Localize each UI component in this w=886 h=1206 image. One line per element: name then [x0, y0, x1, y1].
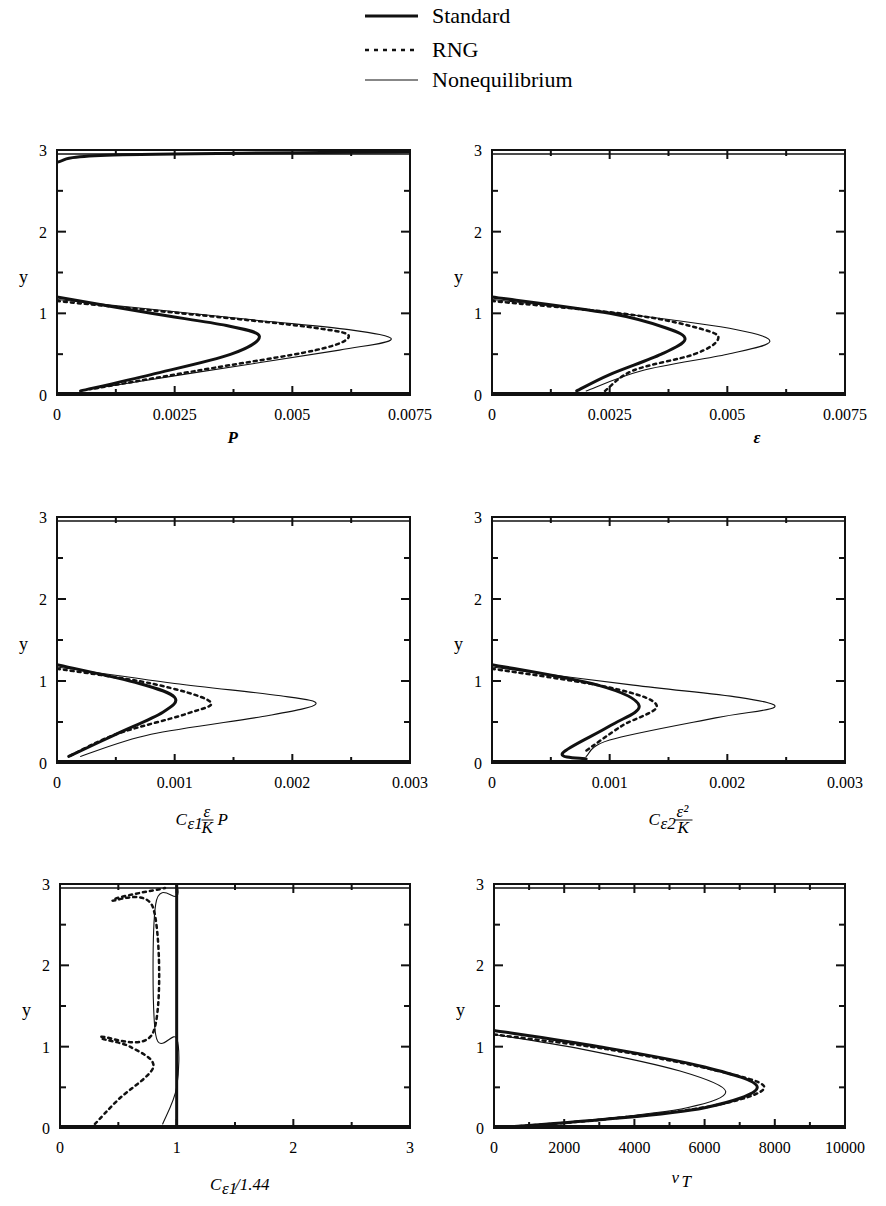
plot-area: [60, 884, 410, 1128]
series-line-nonequilibrium: [57, 299, 391, 389]
x-tick-label: 0.005: [274, 406, 310, 423]
x-tick-label: 0.002: [274, 774, 310, 791]
y-tick-label: 0: [42, 1120, 50, 1137]
y-tick-label: 2: [39, 224, 47, 241]
y-tick-label: 2: [476, 957, 484, 974]
x-tick-label: 0.0025: [588, 406, 632, 423]
x-tick-label: 0: [488, 406, 496, 423]
y-tick-label: 3: [39, 142, 47, 159]
legend-rng-label: RNG: [432, 37, 479, 62]
x-tick-label: 0.002: [709, 774, 745, 791]
y-tick-label: 2: [474, 224, 482, 241]
y-tick-label: 1: [474, 305, 482, 322]
y-tick-label: 2: [42, 957, 50, 974]
y-tick-label: 2: [39, 591, 47, 608]
y-tick-label: 0: [39, 755, 47, 772]
x-tick-label: 0.001: [592, 774, 628, 791]
x-tick-label: 6000: [689, 1139, 721, 1156]
x-tick-label: 4000: [618, 1139, 650, 1156]
x-tick-label: 0.0025: [153, 406, 197, 423]
svg-text:T: T: [682, 1172, 693, 1191]
y-axis-label: y: [22, 1000, 31, 1020]
svg-text:C: C: [210, 1175, 222, 1194]
x-axis-label: P: [227, 428, 239, 447]
x-tick-label: 0: [490, 1139, 498, 1156]
plot-frame: [494, 884, 845, 1128]
nu-t-panel: 0123y0200040006000800010000νT: [456, 876, 865, 1191]
y-axis-label: y: [454, 267, 463, 287]
plot-area: [492, 521, 845, 761]
y-tick-label: 1: [42, 1039, 50, 1056]
series-line-rng: [492, 669, 657, 751]
legend-standard-label: Standard: [432, 3, 510, 28]
y-tick-label: 3: [39, 509, 47, 526]
ce1-ratio-panel: 0123y0123Cε1/1.44: [22, 876, 414, 1198]
plot-frame: [57, 150, 410, 395]
y-axis-label: y: [456, 1000, 465, 1020]
y-tick-label: 1: [476, 1039, 484, 1056]
series-line-standard: [492, 665, 639, 759]
y-axis-label: y: [19, 634, 28, 654]
plot-frame: [492, 517, 845, 763]
plot-area: [492, 154, 845, 393]
plot-frame: [492, 150, 845, 395]
plot-frame: [57, 517, 410, 763]
series-line-nonequilibrium: [492, 299, 770, 390]
x-tick-label: 0: [53, 406, 61, 423]
ce2-dissipation-panel: 0123y00.0010.0020.003Cε2ε²K: [454, 509, 863, 837]
plot-area: [494, 888, 845, 1128]
series-line-rng: [494, 1034, 764, 1128]
x-tick-label: 0.003: [827, 774, 863, 791]
svg-text:ε: ε: [754, 428, 761, 447]
y-tick-label: 1: [39, 673, 47, 690]
series-line-standard: [57, 665, 176, 757]
x-tick-label: 0: [488, 774, 496, 791]
figure-canvas: Standard RNG Nonequilibrium 0123y00.0025…: [0, 0, 886, 1206]
x-axis-label: Cε1/1.44: [210, 1175, 270, 1198]
svg-text:ε1: ε1: [188, 814, 203, 833]
svg-text:C: C: [649, 810, 661, 829]
svg-text:ε2: ε2: [661, 814, 677, 833]
x-axis-label: Cε1εKP: [176, 802, 228, 837]
x-tick-label: 0.003: [392, 774, 428, 791]
x-axis-label: ε: [754, 428, 761, 447]
y-axis-label: y: [454, 634, 463, 654]
svg-text:K: K: [677, 818, 691, 837]
x-axis-label: νT: [672, 1168, 693, 1191]
p-panel: 0123y00.00250.0050.0075P: [19, 142, 432, 447]
legend: Standard RNG Nonequilibrium: [365, 3, 573, 92]
y-tick-label: 3: [474, 142, 482, 159]
svg-text:/1.44: /1.44: [234, 1175, 270, 1194]
x-tick-label: 3: [406, 1139, 414, 1156]
svg-text:K: K: [201, 818, 215, 837]
svg-text:ν: ν: [672, 1168, 680, 1187]
y-tick-label: 1: [39, 305, 47, 322]
x-tick-label: 0.005: [709, 406, 745, 423]
y-axis-label: y: [19, 267, 28, 287]
plot-area: [57, 521, 410, 761]
x-tick-label: 2: [289, 1139, 297, 1156]
legend-noneq-label: Nonequilibrium: [432, 67, 573, 92]
x-tick-label: 1: [173, 1139, 181, 1156]
x-tick-label: 2000: [548, 1139, 580, 1156]
series-line-standard: [494, 1030, 757, 1128]
x-tick-label: 10000: [825, 1139, 865, 1156]
svg-text:C: C: [176, 810, 188, 829]
y-tick-label: 3: [474, 509, 482, 526]
epsilon-panel: 0123y00.00250.0050.0075ε: [454, 142, 867, 447]
series-line-standard: [492, 297, 685, 391]
x-tick-label: 8000: [759, 1139, 791, 1156]
ce1-production-panel: 0123y00.0010.0020.003Cε1εKP: [19, 509, 428, 837]
x-axis-label: Cε2ε²K: [649, 802, 693, 837]
plot-area: [57, 152, 410, 393]
y-tick-label: 0: [474, 755, 482, 772]
x-tick-label: 0.0075: [823, 406, 867, 423]
y-tick-label: 1: [474, 673, 482, 690]
y-tick-label: 3: [42, 876, 50, 893]
y-tick-label: 0: [474, 387, 482, 404]
x-tick-label: 0.0075: [388, 406, 432, 423]
x-tick-label: 0.001: [157, 774, 193, 791]
y-tick-label: 0: [476, 1120, 484, 1137]
svg-text:P: P: [227, 428, 239, 447]
plot-frame: [60, 884, 410, 1128]
